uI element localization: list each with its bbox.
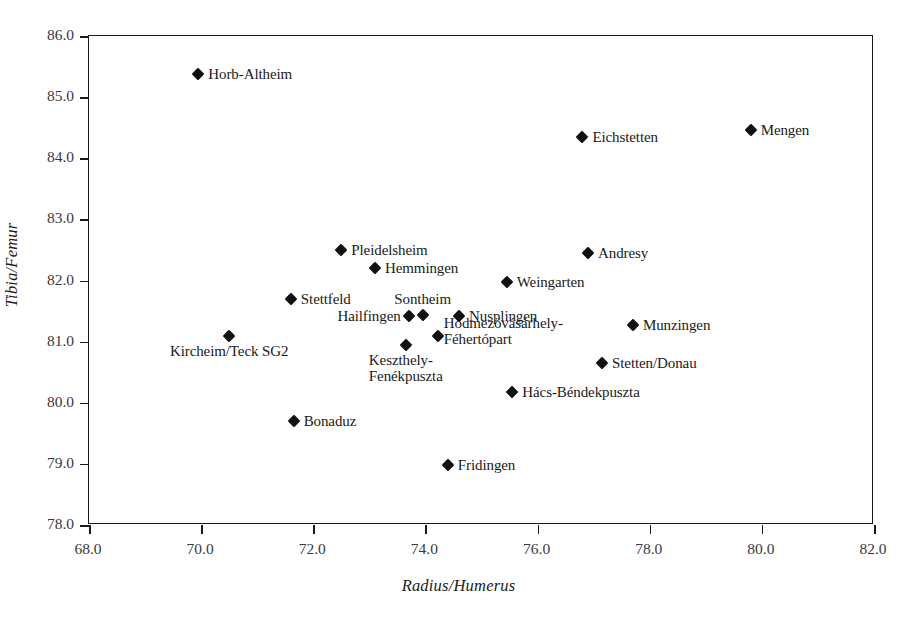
y-tick bbox=[80, 219, 89, 221]
x-tick-label: 74.0 bbox=[389, 540, 459, 558]
y-tick bbox=[80, 97, 89, 99]
data-point-label: Keszthely-Fenékpuszta bbox=[369, 352, 443, 386]
data-point-label: Horb-Altheim bbox=[208, 65, 292, 82]
data-point-marker[interactable] bbox=[402, 310, 415, 323]
x-tick bbox=[874, 525, 876, 534]
data-point-label: Stettfeld bbox=[301, 291, 351, 308]
y-tick bbox=[80, 403, 89, 405]
x-tick bbox=[425, 525, 427, 534]
y-tick bbox=[80, 464, 89, 466]
y-tick-label: 80.0 bbox=[0, 393, 74, 411]
y-tick-label: 79.0 bbox=[0, 454, 74, 472]
data-point-marker[interactable] bbox=[582, 247, 595, 260]
data-point-marker[interactable] bbox=[744, 123, 757, 136]
x-tick-label: 82.0 bbox=[838, 540, 908, 558]
data-point-label: Fridingen bbox=[458, 457, 515, 474]
x-tick-label: 70.0 bbox=[165, 540, 235, 558]
y-tick-label: 85.0 bbox=[0, 87, 74, 105]
data-point-label: Sontheim bbox=[394, 291, 451, 308]
data-point-marker[interactable] bbox=[416, 308, 429, 321]
x-tick-label: 80.0 bbox=[726, 540, 796, 558]
data-point-marker[interactable] bbox=[369, 262, 382, 275]
data-point-marker[interactable] bbox=[431, 329, 444, 342]
data-point-marker[interactable] bbox=[192, 68, 205, 81]
x-tick bbox=[650, 525, 652, 534]
scatter-chart: Horb-AltheimEichstettenMengenPleidelshei… bbox=[0, 0, 917, 623]
data-point-label: Hódmezövásárhely-Féhertópart bbox=[444, 315, 563, 349]
data-point-marker[interactable] bbox=[399, 338, 412, 351]
y-tick bbox=[80, 525, 89, 527]
data-point-label: Hailfingen bbox=[337, 308, 400, 325]
x-tick bbox=[538, 525, 540, 534]
data-point-label: Hács-Béndekpuszta bbox=[522, 383, 639, 400]
data-point-label: Andresy bbox=[598, 245, 648, 262]
data-point-label: Stetten/Donau bbox=[612, 355, 697, 372]
data-point-label: Pleidelsheim bbox=[351, 242, 427, 259]
data-point-label: Bonaduz bbox=[304, 413, 357, 430]
data-point-marker[interactable] bbox=[576, 130, 589, 143]
x-tick bbox=[762, 525, 764, 534]
data-point-marker[interactable] bbox=[284, 293, 297, 306]
data-point-marker[interactable] bbox=[287, 415, 300, 428]
data-point-label: Weingarten bbox=[517, 273, 585, 290]
data-point-marker[interactable] bbox=[500, 275, 513, 288]
y-tick-label: 86.0 bbox=[0, 26, 74, 44]
y-tick bbox=[80, 281, 89, 283]
data-point-label: Eichstetten bbox=[592, 128, 658, 145]
y-tick bbox=[80, 36, 89, 38]
x-tick-label: 78.0 bbox=[614, 540, 684, 558]
x-tick bbox=[89, 525, 91, 534]
data-point-label: Munzingen bbox=[643, 317, 710, 334]
x-tick-label: 68.0 bbox=[53, 540, 123, 558]
x-tick-label: 72.0 bbox=[277, 540, 347, 558]
y-tick bbox=[80, 342, 89, 344]
data-point-marker[interactable] bbox=[441, 459, 454, 472]
data-point-marker[interactable] bbox=[506, 385, 519, 398]
data-point-marker[interactable] bbox=[223, 329, 236, 342]
data-point-marker[interactable] bbox=[627, 319, 640, 332]
data-point-label: Kircheim/Teck SG2 bbox=[170, 343, 288, 360]
x-tick-label: 76.0 bbox=[502, 540, 572, 558]
data-point-marker[interactable] bbox=[335, 244, 348, 257]
y-tick bbox=[80, 158, 89, 160]
y-axis-title: Tibia/Femur bbox=[2, 135, 22, 395]
data-point-label: Hemmingen bbox=[385, 260, 458, 277]
x-axis-title: Radius/Humerus bbox=[0, 576, 917, 596]
plot-area: Horb-AltheimEichstettenMengenPleidelshei… bbox=[88, 35, 873, 524]
x-tick bbox=[201, 525, 203, 534]
data-point-marker[interactable] bbox=[596, 357, 609, 370]
x-tick bbox=[313, 525, 315, 534]
data-point-label: Mengen bbox=[761, 121, 810, 138]
y-tick-label: 78.0 bbox=[0, 515, 74, 533]
